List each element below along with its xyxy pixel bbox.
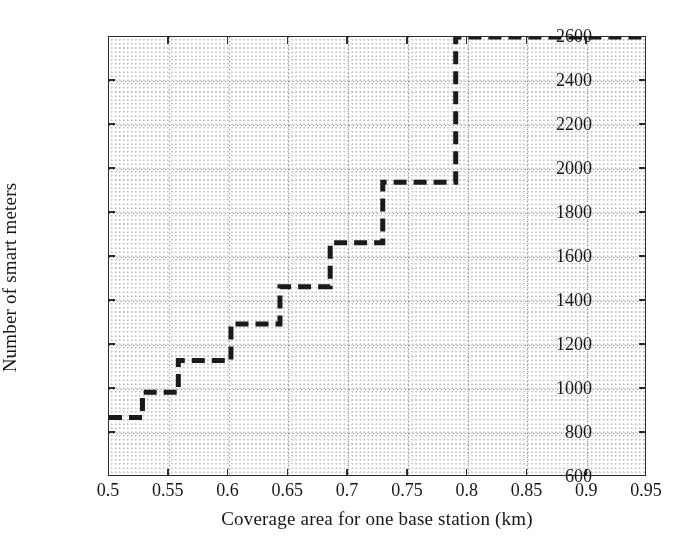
y-tick-mark <box>108 343 115 345</box>
y-tick-label: 2000 <box>556 158 592 179</box>
y-tick-label: 1000 <box>556 378 592 399</box>
x-tick-label: 0.7 <box>336 480 359 501</box>
x-tick-mark <box>287 469 289 476</box>
y-tick-label: 2600 <box>556 26 592 47</box>
y-tick-mark-right <box>639 299 646 301</box>
y-tick-mark-right <box>639 431 646 433</box>
y-tick-label: 1200 <box>556 334 592 355</box>
x-tick-mark <box>466 469 468 476</box>
y-tick-label: 1600 <box>556 246 592 267</box>
x-tick-mark-top <box>346 37 348 44</box>
y-axis-title-text: Number of smart meters <box>0 183 45 373</box>
x-tick-mark-top <box>406 37 408 44</box>
x-tick-mark <box>346 469 348 476</box>
y-tick-label: 2200 <box>556 114 592 135</box>
y-tick-mark <box>108 79 115 81</box>
x-tick-label: 0.85 <box>511 480 543 501</box>
y-tick-mark <box>108 387 115 389</box>
y-tick-label: 1800 <box>556 202 592 223</box>
y-tick-mark-right <box>639 211 646 213</box>
y-tick-mark <box>108 167 115 169</box>
y-tick-mark-right <box>639 79 646 81</box>
y-tick-mark-right <box>639 167 646 169</box>
y-tick-mark <box>108 431 115 433</box>
y-tick-mark <box>108 211 115 213</box>
y-tick-mark-right <box>639 343 646 345</box>
x-tick-label: 0.5 <box>97 480 120 501</box>
y-axis-title: Number of smart meters <box>0 0 44 555</box>
x-tick-mark-top <box>466 37 468 44</box>
x-tick-label: 0.8 <box>455 480 478 501</box>
x-tick-label: 0.6 <box>216 480 239 501</box>
x-tick-label: 0.65 <box>272 480 304 501</box>
y-tick-mark <box>108 123 115 125</box>
y-tick-mark-right <box>639 123 646 125</box>
x-tick-mark-top <box>526 37 528 44</box>
x-tick-label: 0.95 <box>630 480 662 501</box>
x-tick-mark <box>227 469 229 476</box>
x-tick-mark-top <box>227 37 229 44</box>
x-tick-mark <box>167 469 169 476</box>
x-tick-mark-top <box>287 37 289 44</box>
y-tick-label: 800 <box>565 422 592 443</box>
x-tick-label: 0.75 <box>391 480 423 501</box>
y-tick-mark <box>108 299 115 301</box>
y-tick-label: 600 <box>565 466 592 487</box>
y-tick-label: 1400 <box>556 290 592 311</box>
x-tick-mark <box>526 469 528 476</box>
y-tick-mark <box>108 255 115 257</box>
step-line-series <box>109 37 646 418</box>
y-tick-mark-right <box>639 255 646 257</box>
y-tick-mark-right <box>639 387 646 389</box>
y-tick-label: 2400 <box>556 70 592 91</box>
chart-figure: Number of smart meters 0.50.550.60.650.7… <box>0 0 692 555</box>
x-axis-title: Coverage area for one base station (km) <box>108 508 646 530</box>
x-tick-label: 0.55 <box>152 480 184 501</box>
x-tick-mark <box>406 469 408 476</box>
x-tick-mark-top <box>167 37 169 44</box>
